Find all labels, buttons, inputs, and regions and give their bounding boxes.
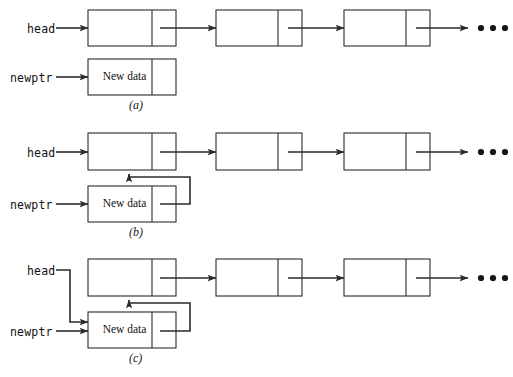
panel-a-graphics: [0, 0, 513, 377]
panel-c-head-label: head: [27, 264, 56, 278]
panel-a-head-label: head: [27, 22, 56, 36]
panel-a-newptr-label: newptr: [10, 71, 53, 85]
linked-list-insertion-figure: head newptr New data (a) head newptr New…: [0, 0, 513, 377]
panel-a-new-data-text: New data: [97, 70, 152, 82]
panel-a-ellipsis-icon: [478, 25, 508, 31]
panel-c-new-data-text: New data: [97, 323, 152, 335]
panel-a-caption: (a): [129, 98, 143, 113]
panel-b-caption: (b): [129, 225, 143, 240]
panel-c-head-arrow: [56, 270, 88, 322]
panel-c-caption: (c): [129, 351, 142, 366]
panel-c-newptr-label: newptr: [10, 325, 53, 339]
panel-b-new-data-text: New data: [97, 197, 152, 209]
panel-b-ellipsis-icon: [478, 149, 508, 155]
panel-c-ellipsis-icon: [478, 275, 508, 281]
panel-b-newptr-label: newptr: [10, 198, 53, 212]
panel-b-head-label: head: [27, 146, 56, 160]
